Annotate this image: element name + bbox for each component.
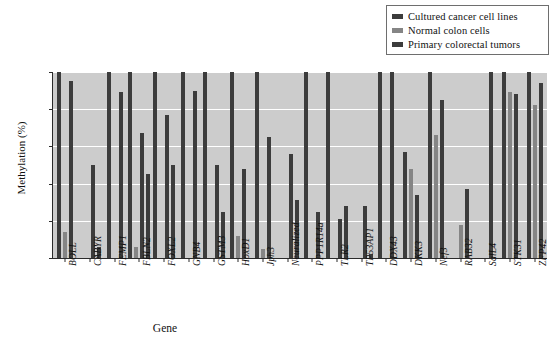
bar-primary-colorectal-tumors — [69, 81, 73, 258]
bar-group — [201, 72, 226, 258]
chart-legend: Cultured cancer cell linesNormal colon c… — [386, 5, 549, 55]
bar-primary-colorectal-tumors — [267, 137, 271, 258]
x-tick-label: FOXL2 — [167, 237, 177, 267]
bar-group — [448, 72, 473, 258]
x-tick-label: BOLL — [68, 242, 78, 266]
x-tick-label: CABYR — [93, 236, 103, 266]
bar-group — [177, 72, 202, 258]
x-axis-title: Gene — [0, 322, 330, 334]
bar-group — [325, 72, 350, 258]
x-tick-mark — [90, 258, 91, 262]
bar-group — [399, 72, 424, 258]
x-tick-mark — [485, 258, 486, 262]
x-tick-mark — [139, 258, 140, 262]
bar-group — [127, 72, 152, 258]
bar-normal-colon-cells — [434, 135, 438, 258]
legend-swatch-icon — [392, 28, 403, 33]
bar-cultured-cancer-cell-lines — [107, 72, 111, 258]
bar-cultured-cancer-cell-lines — [403, 152, 407, 258]
bar-normal-colon-cells — [261, 249, 265, 258]
x-tick-mark — [287, 258, 288, 262]
x-tick-label: HoxD1 — [241, 238, 251, 266]
bar-cultured-cancer-cell-lines — [57, 72, 61, 258]
x-tick-label: Jph3 — [266, 247, 276, 266]
legend-item-label: Primary colorectal tumors — [408, 39, 520, 50]
bar-normal-colon-cells — [409, 169, 413, 258]
bar-cultured-cancer-cell-lines — [326, 72, 330, 258]
x-tick-label: FBLN2 — [142, 237, 152, 266]
bar-primary-colorectal-tumors — [489, 72, 493, 258]
bar-normal-colon-cells — [508, 92, 512, 258]
x-tick-mark — [262, 258, 263, 262]
bar-cultured-cancer-cell-lines — [255, 72, 259, 258]
legend-item: Normal colon cells — [392, 23, 544, 37]
bar-normal-colon-cells — [533, 105, 537, 258]
x-tick-mark — [188, 258, 189, 262]
x-tick-mark — [312, 258, 313, 262]
bar-cultured-cancer-cell-lines — [304, 72, 308, 258]
x-tick-mark — [534, 258, 535, 262]
bar-normal-colon-cells — [134, 247, 138, 258]
x-tick-label: TLR2 — [340, 244, 350, 266]
bar-cultured-cancer-cell-lines — [128, 72, 132, 258]
x-tick-mark — [460, 258, 461, 262]
bar-group — [424, 72, 449, 258]
bar-group — [102, 72, 127, 258]
bar-group — [498, 72, 523, 258]
bar-primary-colorectal-tumors — [119, 92, 123, 258]
bar-primary-colorectal-tumors — [539, 83, 543, 258]
x-tick-label: FEMP1 — [118, 235, 128, 266]
x-tick-mark — [435, 258, 436, 262]
x-tick-label: SalL4 — [488, 243, 498, 266]
bar-cultured-cancer-cell-lines — [502, 72, 506, 258]
x-tick-mark — [361, 258, 362, 262]
legend-swatch-icon — [392, 14, 403, 19]
legend-item-label: Cultured cancer cell lines — [408, 11, 518, 22]
legend-item: Primary colorectal tumors — [392, 37, 544, 51]
legend-swatch-icon — [392, 42, 403, 47]
x-tick-label: GNB4 — [192, 241, 202, 266]
bar-group — [251, 72, 276, 258]
x-tick-label: Neuralized — [291, 222, 301, 266]
bar-group — [53, 72, 78, 258]
methylation-bar-chart: Cultured cancer cell linesNormal colon c… — [0, 0, 555, 343]
x-tick-mark — [386, 258, 387, 262]
bar-cultured-cancer-cell-lines — [181, 72, 185, 258]
bar-primary-colorectal-tumors — [390, 72, 394, 258]
x-tick-label: Nef3 — [439, 247, 449, 266]
bar-normal-colon-cells — [63, 232, 67, 258]
bar-cultured-cancer-cell-lines — [378, 72, 382, 258]
legend-item: Cultured cancer cell lines — [392, 9, 544, 23]
bar-normal-colon-cells — [459, 225, 463, 258]
x-tick-label: DDX43 — [389, 236, 399, 266]
x-tick-label: STK31 — [513, 239, 523, 266]
bar-cultured-cancer-cell-lines — [203, 72, 207, 258]
y-tick-mark — [49, 258, 53, 259]
bar-normal-colon-cells — [236, 236, 240, 258]
bar-cultured-cancer-cell-lines — [428, 72, 432, 258]
bar-group — [226, 72, 251, 258]
bar-primary-colorectal-tumors — [514, 94, 518, 258]
bar-group — [152, 72, 177, 258]
x-tick-mark — [213, 258, 214, 262]
x-tick-label: GSTM3 — [217, 235, 227, 266]
x-tick-mark — [411, 258, 412, 262]
bar-cultured-cancer-cell-lines — [527, 72, 531, 258]
bar-group — [522, 72, 547, 258]
x-tick-mark — [238, 258, 239, 262]
bar-group — [78, 72, 103, 258]
x-tick-mark — [510, 258, 511, 262]
bar-primary-colorectal-tumors — [440, 100, 444, 258]
x-tick-label: DKK3 — [414, 241, 424, 266]
x-tick-mark — [65, 258, 66, 262]
bar-cultured-cancer-cell-lines — [230, 72, 234, 258]
x-tick-label: PPP1R14a — [315, 222, 325, 266]
x-tick-mark — [337, 258, 338, 262]
x-tick-label: ZFP42 — [538, 239, 548, 266]
bar-cultured-cancer-cell-lines — [153, 72, 157, 258]
bar-primary-colorectal-tumors — [193, 91, 197, 258]
x-tick-label: TP53AP1 — [365, 228, 375, 266]
legend-item-label: Normal colon cells — [408, 25, 490, 36]
y-axis-title: Methylation (%) — [15, 88, 27, 228]
x-tick-label: RAB32 — [464, 238, 474, 266]
